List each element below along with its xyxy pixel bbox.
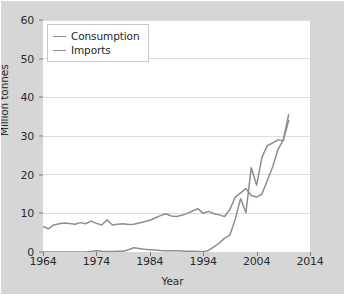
chart-legend: Consumption Imports (47, 24, 149, 62)
y-tick-label: 30 (20, 130, 34, 143)
x-tick-mark (203, 252, 204, 256)
chart-figure: Million tonnes Year 0102030405060 196419… (0, 0, 345, 295)
y-tick-label: 40 (20, 91, 34, 104)
x-tick-label: 1974 (83, 255, 110, 268)
legend-line-swatch-consumption (53, 36, 66, 37)
y-tick-label: 20 (20, 168, 34, 181)
legend-item-imports[interactable]: Imports (53, 43, 139, 57)
x-tick-label: 2014 (296, 255, 323, 268)
legend-label-imports: Imports (71, 44, 111, 56)
x-tick-mark (43, 252, 44, 256)
y-axis-label: Million tonnes (0, 64, 10, 136)
x-axis-label: Year (0, 275, 345, 287)
x-tick-label: 2004 (243, 255, 270, 268)
y-tick-label: 50 (20, 52, 34, 65)
x-tick-label: 1994 (190, 255, 217, 268)
data-series-group (43, 115, 289, 252)
x-tick-mark (150, 252, 151, 256)
series-line-imports (43, 121, 289, 252)
y-tick-label: 10 (20, 207, 34, 220)
y-tick-label: 60 (20, 14, 34, 27)
x-tick-mark (96, 252, 97, 256)
x-tick-mark (310, 252, 311, 256)
x-tick-label: 1964 (29, 255, 56, 268)
x-tick-mark (257, 252, 258, 256)
legend-line-swatch-imports (53, 50, 66, 51)
x-tick-label: 1984 (136, 255, 163, 268)
legend-item-consumption[interactable]: Consumption (53, 29, 139, 43)
legend-label-consumption: Consumption (71, 30, 139, 42)
